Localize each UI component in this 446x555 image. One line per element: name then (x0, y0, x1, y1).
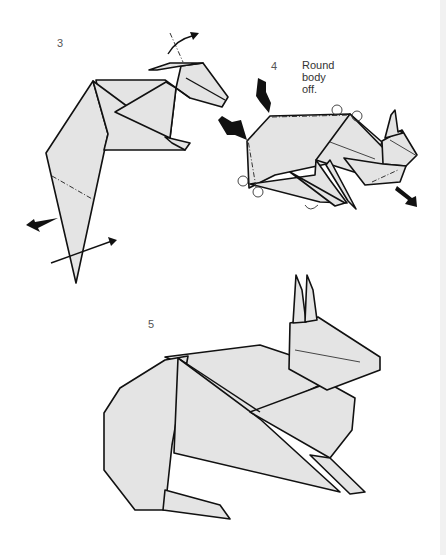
push-arrow-icon (395, 186, 417, 207)
origami-diagram (0, 0, 446, 555)
step-5-rabbit (104, 275, 380, 519)
step-4-rabbit (218, 78, 417, 209)
step-3-rabbit (26, 32, 228, 283)
push-arrow-icon (218, 116, 247, 140)
diagram-page: 3 4 Round body off. 5 (0, 0, 446, 555)
push-arrow-icon (26, 218, 58, 232)
push-arrow-icon (256, 78, 271, 113)
